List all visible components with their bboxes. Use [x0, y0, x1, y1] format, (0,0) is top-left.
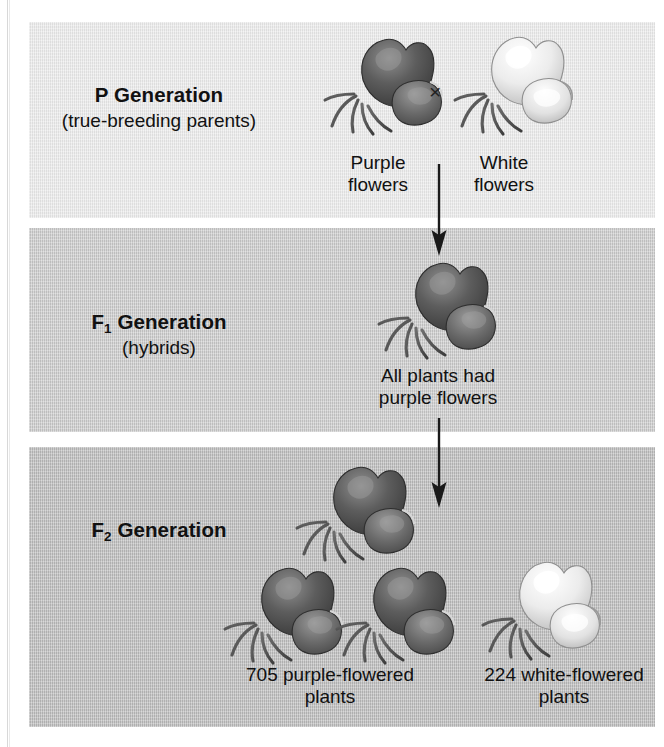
label-f2-generation: F2 Generation: [34, 518, 284, 542]
flower-white-parent: [450, 30, 580, 142]
p-generation-title-main: P: [95, 83, 108, 106]
f2-generation-title-sub: 2: [104, 529, 112, 544]
page-left-rule: [7, 0, 8, 747]
f1-generation-subtitle: (hybrids): [34, 337, 284, 359]
caption-f2-white-count: 224 white-flowered plants: [468, 664, 660, 708]
page-left-rule-secondary: [9, 0, 10, 747]
label-f1-generation: F1 Generation (hybrids): [34, 310, 284, 359]
caption-purple-flowers: Purple flowers: [324, 152, 432, 196]
caption-f2-purple-count: 705 purple-flowered plants: [196, 664, 464, 708]
flower-purple-f2-top: [290, 462, 420, 572]
p-generation-title-rest: Generation: [108, 83, 223, 106]
label-p-generation: P Generation (true-breeding parents): [34, 83, 284, 132]
f1-generation-title-sub: 1: [104, 321, 112, 336]
f1-generation-title-main: F: [91, 310, 104, 333]
f2-generation-title: F2 Generation: [34, 518, 284, 542]
cross-symbol: ×: [429, 80, 441, 104]
p-generation-subtitle: (true-breeding parents): [34, 110, 284, 132]
caption-white-flowers: White flowers: [452, 152, 556, 196]
flower-purple-f2-left: [218, 563, 348, 673]
arrow-f1-to-f2-icon: [424, 418, 454, 510]
f2-generation-title-rest: Generation: [112, 518, 227, 541]
flower-purple-f1: [372, 258, 502, 368]
caption-f1-result: All plants had purple flowers: [330, 365, 546, 409]
mendel-cross-figure: P Generation (true-breeding parents): [0, 0, 664, 747]
f2-generation-title-main: F: [91, 518, 104, 541]
f1-generation-title-rest: Generation: [112, 310, 227, 333]
flower-purple-f2-middle: [330, 563, 460, 673]
flower-white-f2: [478, 555, 608, 667]
arrow-p-to-f1-icon: [424, 164, 454, 258]
f1-generation-title: F1 Generation: [34, 310, 284, 334]
p-generation-title: P Generation: [34, 83, 284, 107]
